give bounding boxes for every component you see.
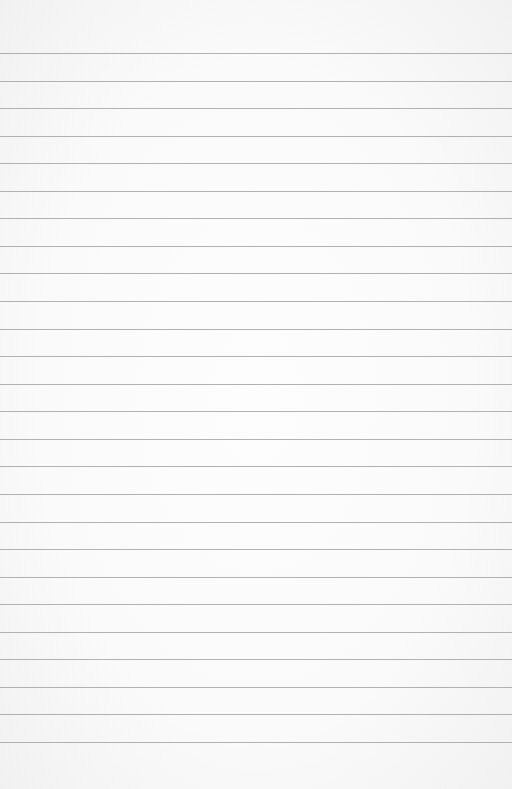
ruled-line bbox=[0, 53, 512, 54]
ruled-line bbox=[0, 218, 512, 219]
ruled-line bbox=[0, 439, 512, 440]
ruled-line bbox=[0, 81, 512, 82]
ruled-line bbox=[0, 549, 512, 550]
ruled-line bbox=[0, 191, 512, 192]
ruled-line bbox=[0, 604, 512, 605]
ruled-line bbox=[0, 273, 512, 274]
ruled-line bbox=[0, 136, 512, 137]
lined-paper bbox=[0, 0, 512, 789]
ruled-line bbox=[0, 494, 512, 495]
ruled-line bbox=[0, 687, 512, 688]
ruled-line bbox=[0, 742, 512, 743]
ruled-line bbox=[0, 384, 512, 385]
ruled-line bbox=[0, 108, 512, 109]
ruled-line bbox=[0, 466, 512, 467]
ruled-line bbox=[0, 356, 512, 357]
ruled-line bbox=[0, 246, 512, 247]
ruled-line bbox=[0, 577, 512, 578]
ruled-line bbox=[0, 659, 512, 660]
ruled-line bbox=[0, 301, 512, 302]
ruled-line bbox=[0, 329, 512, 330]
ruled-line bbox=[0, 163, 512, 164]
ruled-line bbox=[0, 522, 512, 523]
ruled-line bbox=[0, 714, 512, 715]
ruled-line bbox=[0, 632, 512, 633]
ruled-line bbox=[0, 411, 512, 412]
